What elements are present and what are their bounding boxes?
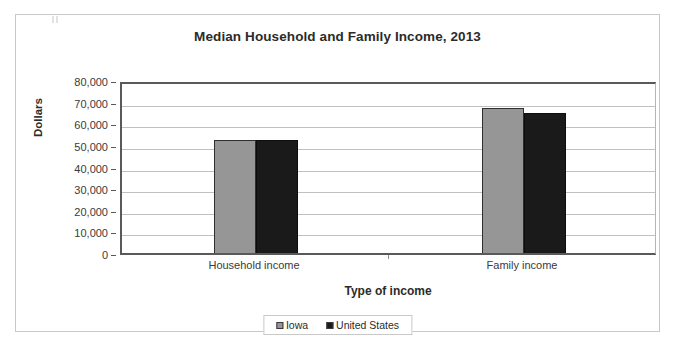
y-axis-tick-mark xyxy=(111,147,116,148)
legend-label: Iowa xyxy=(286,319,308,331)
y-axis-tick-label: 40,000 xyxy=(74,163,108,175)
chart-frame: Median Household and Family Income, 2013… xyxy=(15,14,660,332)
y-axis-tick-mark xyxy=(111,255,116,256)
legend-swatch-icon xyxy=(276,322,283,329)
x-axis-title: Type of income xyxy=(120,284,656,298)
y-axis-tick-mark xyxy=(111,169,116,170)
bar-family-income-united-states xyxy=(524,113,566,253)
bars-layer xyxy=(122,84,655,253)
y-axis-tick-label: 10,000 xyxy=(74,227,108,239)
bar-family-income-iowa xyxy=(482,108,524,253)
y-axis-tick-mark xyxy=(111,82,116,83)
plot-area xyxy=(120,82,656,255)
y-axis-tick-mark xyxy=(111,125,116,126)
y-axis-tick-mark xyxy=(111,190,116,191)
legend-label: United States xyxy=(336,319,399,331)
x-axis-category-label: Family income xyxy=(487,259,558,271)
y-axis-tick-label: 0 xyxy=(102,249,108,261)
legend-entry-iowa[interactable]: Iowa xyxy=(276,319,308,331)
y-axis-tick-label: 60,000 xyxy=(74,119,108,131)
x-axis-category-label: Household income xyxy=(208,259,299,271)
y-axis-tick-labels: 010,00020,00030,00040,00050,00060,00070,… xyxy=(16,82,116,255)
legend-swatch-icon xyxy=(326,322,333,329)
x-axis-category-labels: Household incomeFamily income xyxy=(120,259,656,277)
chart-title: Median Household and Family Income, 2013 xyxy=(16,29,659,44)
bar-household-income-united-states xyxy=(256,140,298,253)
y-axis-tick-label: 30,000 xyxy=(74,184,108,196)
chart-legend: IowaUnited States xyxy=(263,315,412,335)
y-axis-tick-label: 50,000 xyxy=(74,141,108,153)
legend-entry-united-states[interactable]: United States xyxy=(326,319,399,331)
y-axis-tick-mark xyxy=(111,104,116,105)
y-axis-tick-label: 80,000 xyxy=(74,76,108,88)
y-axis-tick-label: 20,000 xyxy=(74,206,108,218)
y-axis-tick-mark xyxy=(111,212,116,213)
y-axis-tick-mark xyxy=(111,233,116,234)
bar-household-income-iowa xyxy=(214,140,256,253)
scan-artifact xyxy=(52,16,64,23)
y-axis-tick-label: 70,000 xyxy=(74,98,108,110)
x-axis-tick-mark xyxy=(388,255,389,259)
